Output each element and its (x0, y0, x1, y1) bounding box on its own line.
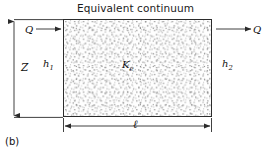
ke-subscript: e (129, 65, 133, 73)
figure-caption: (b) (5, 136, 19, 147)
figure-title: Equivalent continuum (0, 2, 271, 14)
head-left-label: h1 (43, 58, 54, 72)
stipple-pattern-icon (64, 20, 211, 116)
head-right-label: h2 (222, 58, 233, 72)
equivalent-conductivity-label: Ke (122, 59, 134, 73)
continuum-block (63, 19, 212, 117)
figure-equivalent-continuum: Equivalent continuum (0, 0, 271, 156)
h1-subscript: 1 (49, 64, 53, 72)
h2-subscript: 2 (228, 64, 232, 72)
outlet-flow-label: Q (253, 24, 261, 35)
height-dimension-label: Z (21, 61, 28, 73)
inlet-flow-label: Q (25, 24, 33, 35)
length-dimension-label: ℓ (133, 118, 138, 131)
